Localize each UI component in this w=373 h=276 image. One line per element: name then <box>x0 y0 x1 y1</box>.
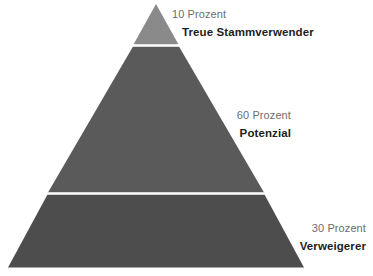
tier-label-middle: 60 Prozent Potenzial <box>151 110 291 140</box>
tier-name-bottom: Verweigerer <box>226 241 366 253</box>
tier-percent-bottom: 30 Prozent <box>226 223 366 234</box>
tier-percent-middle: 60 Prozent <box>151 110 291 121</box>
tier-percent-top: 10 Prozent <box>133 9 313 20</box>
pyramid-diagram: 10 Prozent Treue Stammverwender 60 Proze… <box>0 0 373 276</box>
tier-name-middle: Potenzial <box>151 128 291 140</box>
tier-label-top: 10 Prozent Treue Stammverwender <box>133 9 313 39</box>
pyramid-divider-lower <box>46 193 265 195</box>
tier-label-bottom: 30 Prozent Verweigerer <box>226 223 366 253</box>
tier-name-top: Treue Stammverwender <box>133 27 313 39</box>
pyramid-divider-upper <box>131 45 181 47</box>
